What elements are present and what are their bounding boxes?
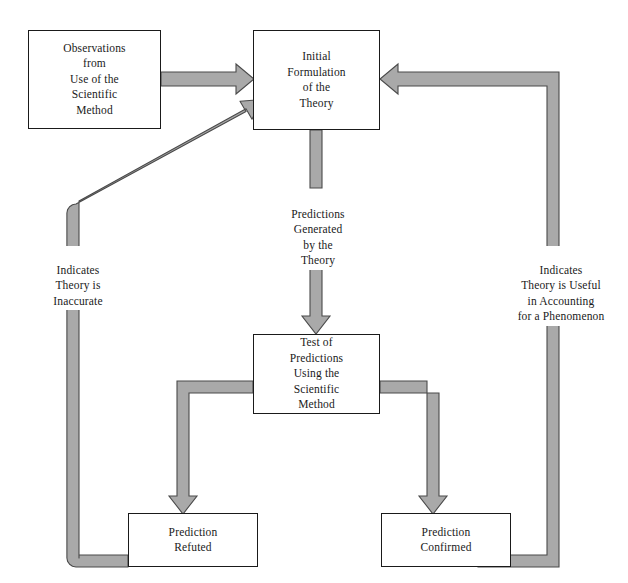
- edge-label-indicates-inaccurate-text: Indicates Theory is Inaccurate: [53, 264, 102, 307]
- node-prediction-confirmed-label: Prediction Confirmed: [420, 525, 471, 556]
- edge-label-indicates-useful: Indicates Theory is Useful in Accounting…: [493, 246, 628, 326]
- edge-label-indicates-useful-text: Indicates Theory is Useful in Accounting…: [518, 264, 605, 323]
- edge-label-predictions-generated-text: Predictions Generated by the Theory: [291, 208, 344, 267]
- edge-label-predictions-generated: Predictions Generated by the Theory: [256, 190, 380, 270]
- edge-test-to-confirmed: [380, 381, 447, 514]
- edge-formulation-stub-upper: [310, 130, 322, 188]
- edge-test-to-refuted: [169, 381, 253, 514]
- edge-observations-to-formulation: [161, 64, 254, 94]
- node-observations-label: Observations from Use of the Scientific …: [63, 41, 125, 119]
- edge-refuted-to-formulation: [67, 100, 262, 567]
- node-initial-formulation[interactable]: Initial Formulation of the Theory: [253, 30, 380, 130]
- node-test-of-predictions-label: Test of Predictions Using the Scientific…: [290, 335, 343, 413]
- node-prediction-confirmed[interactable]: Prediction Confirmed: [381, 513, 511, 567]
- flowchart-diagram: Observations from Use of the Scientific …: [0, 0, 628, 583]
- node-observations[interactable]: Observations from Use of the Scientific …: [28, 30, 161, 129]
- edge-label-indicates-inaccurate: Indicates Theory is Inaccurate: [24, 246, 132, 310]
- node-test-of-predictions[interactable]: Test of Predictions Using the Scientific…: [253, 334, 380, 414]
- node-prediction-refuted-label: Prediction Refuted: [169, 525, 218, 556]
- node-initial-formulation-label: Initial Formulation of the Theory: [287, 49, 346, 111]
- node-prediction-refuted[interactable]: Prediction Refuted: [128, 513, 258, 567]
